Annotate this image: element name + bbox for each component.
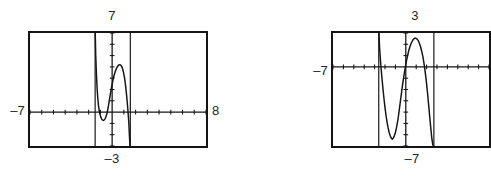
graphing-calculator-figure-1: 7 –3 –7 8: [0, 0, 244, 178]
function-plot-2: [333, 33, 489, 146]
window-xmin-label-1: –7: [10, 104, 25, 117]
window-ymax-label-1: 7: [108, 9, 115, 22]
window-xmin-label-2: –7: [313, 64, 328, 77]
graphing-calculator-figure-2: 3 –7 –7: [244, 0, 487, 178]
calculator-screen-1: [28, 31, 208, 148]
window-ymin-label-1: –3: [105, 152, 120, 165]
window-xmax-label-1: 8: [212, 104, 219, 117]
function-plot-1: [30, 33, 206, 146]
window-ymax-label-2: 3: [411, 9, 418, 22]
calculator-screen-2: [331, 31, 491, 148]
window-ymin-label-2: –7: [405, 152, 420, 165]
